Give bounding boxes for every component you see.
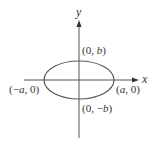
x-axis-label: x	[141, 72, 148, 86]
label-bottom-vertex: (0, −b)	[82, 102, 112, 115]
label-top-vertex: (0, b)	[82, 44, 106, 57]
x-axis-arrow-icon	[132, 78, 139, 83]
y-axis-label: y	[75, 5, 82, 19]
label-left-vertex: (−a, 0)	[9, 83, 39, 96]
y-axis-arrow-icon	[77, 20, 82, 27]
ellipse-diagram: x y (0, b) (0, −b) (−a, 0) (a, 0)	[0, 0, 157, 148]
label-right-vertex: (a, 0)	[116, 83, 140, 96]
